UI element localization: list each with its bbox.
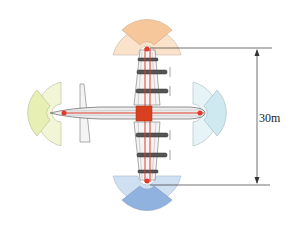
diagram-canvas: 30m — [0, 0, 293, 229]
sensor-bottom — [145, 179, 150, 184]
sensor-tail — [62, 111, 67, 116]
sensor-top — [145, 47, 150, 52]
sensor-nose — [198, 111, 203, 116]
aircraft — [50, 47, 205, 184]
dimension-label: 30m — [259, 111, 280, 126]
central-unit — [136, 106, 152, 121]
